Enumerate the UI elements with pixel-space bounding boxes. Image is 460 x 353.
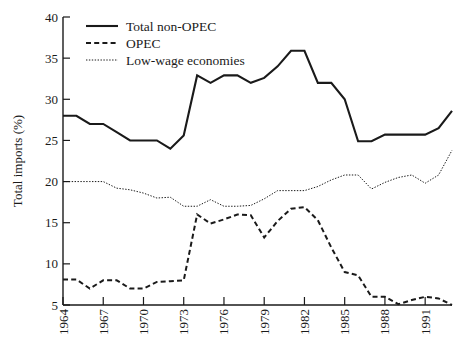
x-tick-label: 1967 [96, 309, 111, 336]
series-line-total-non-opec [63, 51, 452, 149]
y-tick-label: 25 [45, 133, 58, 148]
chart-legend: Total non-OPECOPECLow-wage economies [86, 19, 245, 68]
series-line-low-wage-economies [63, 150, 452, 206]
x-tick-label: 1988 [377, 309, 392, 335]
x-tick-label: 1985 [337, 309, 352, 335]
x-tick-label: 1964 [56, 309, 71, 336]
y-tick-label: 40 [45, 10, 58, 25]
y-axis: 510152025303540 [45, 10, 70, 313]
x-tick-label: 1973 [176, 309, 191, 335]
y-tick-label: 10 [45, 256, 58, 271]
x-tick-label: 1982 [297, 309, 312, 335]
y-tick-label: 20 [45, 174, 58, 189]
y-tick-label: 35 [45, 51, 58, 66]
y-axis-tick-labels: 510152025303540 [45, 10, 58, 313]
x-axis: 1964196719701973197619791982198519881991 [56, 297, 453, 335]
y-tick-label: 30 [45, 92, 58, 107]
x-axis-ticks [63, 297, 425, 305]
series-line-opec [63, 207, 452, 305]
y-axis-ticks [63, 17, 70, 305]
legend-label: OPEC [126, 36, 161, 51]
x-axis-tick-labels: 1964196719701973197619791982198519881991 [56, 309, 433, 336]
series-layer [63, 51, 452, 305]
legend-entry-total-non-opec: Total non-OPEC [86, 19, 216, 34]
legend-label: Total non-OPEC [126, 19, 216, 34]
x-tick-label: 1970 [136, 309, 151, 335]
legend-label: Low-wage economies [126, 53, 245, 68]
y-axis-title: Total imports (%) [10, 115, 25, 207]
x-tick-label: 1991 [418, 309, 433, 335]
x-tick-label: 1979 [257, 309, 272, 335]
line-chart: 510152025303540 196419671970197319761979… [0, 0, 460, 353]
chart-container: 510152025303540 196419671970197319761979… [0, 0, 460, 353]
y-tick-label: 15 [45, 215, 58, 230]
legend-entry-opec: OPEC [86, 36, 161, 51]
x-tick-label: 1976 [216, 309, 231, 336]
legend-entry-low-wage-economies: Low-wage economies [86, 53, 245, 68]
